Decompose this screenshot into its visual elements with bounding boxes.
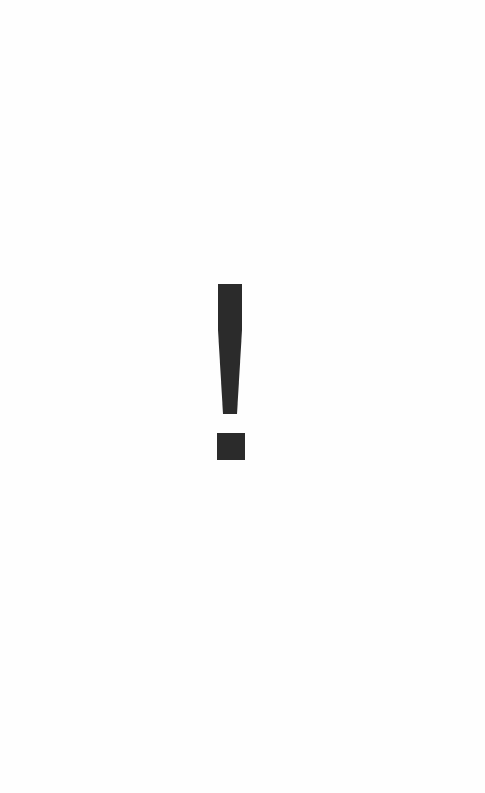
exclamation-mark-icon [0,0,485,793]
exclamation-dot [217,433,245,460]
blank-page: ! [0,0,485,793]
exclamation-stem [218,284,242,414]
